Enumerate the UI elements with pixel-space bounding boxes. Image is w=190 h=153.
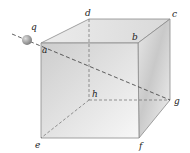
front-face: [41, 43, 139, 138]
charge-sphere: [22, 35, 32, 45]
vertex-label-c: c: [172, 9, 177, 19]
vertex-label-d: d: [85, 8, 91, 18]
vertex-label-g: g: [174, 96, 180, 106]
vertex-label-a: a: [42, 45, 47, 55]
vertex-label-e: e: [35, 140, 40, 150]
cube-diagram: q a b c d e f g h: [0, 0, 190, 153]
vertex-label-h: h: [92, 89, 98, 99]
charge-label: q: [31, 22, 37, 32]
vertex-label-f: f: [138, 141, 144, 151]
vertex-label-b: b: [132, 32, 138, 42]
